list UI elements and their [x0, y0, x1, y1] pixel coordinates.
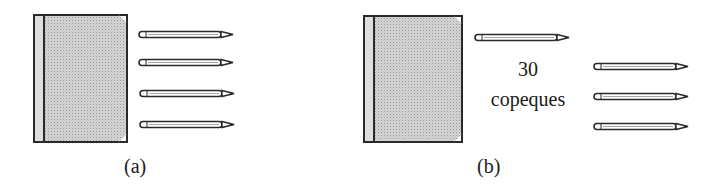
pencil-icon [593, 92, 689, 101]
book-corner [119, 134, 127, 142]
panel-label-a: (a) [124, 155, 146, 178]
pencil-icon [593, 62, 689, 71]
pencil-icon [138, 58, 234, 67]
price-unit: copeques [478, 88, 578, 111]
pencil-icon [139, 120, 235, 129]
price-amount: 30 [505, 58, 551, 81]
book-corner [119, 15, 127, 23]
panel-label-b: (b) [477, 155, 500, 178]
book-spine [35, 16, 45, 141]
pencil-icon [474, 33, 570, 42]
book-icon [33, 14, 128, 143]
pencil-icon [138, 30, 234, 39]
book-corner [454, 134, 462, 142]
book-corner [454, 16, 462, 24]
pencil-icon [139, 89, 235, 98]
book-icon [363, 15, 463, 143]
pencil-icon [593, 122, 689, 131]
book-spine [365, 17, 375, 141]
